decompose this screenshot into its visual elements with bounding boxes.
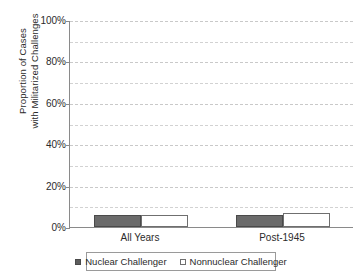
y-axis-tick-label: 40% xyxy=(22,140,66,150)
y-axis-tick-label: 60% xyxy=(22,99,66,109)
y-axis-tick-mark xyxy=(66,187,70,188)
y-axis-tick-mark xyxy=(66,145,70,146)
bars-layer xyxy=(70,21,353,227)
y-axis-tick-mark xyxy=(66,62,70,63)
x-axis-category-label: All Years xyxy=(69,231,211,244)
legend-swatch-icon xyxy=(75,259,81,265)
bar-group xyxy=(236,21,330,227)
y-axis-tick-label: 100% xyxy=(22,16,66,26)
y-axis-tick-labels: 100%80%60%40%20%0% xyxy=(22,0,66,276)
chart-legend: Nuclear ChallengerNonnuclear Challenger xyxy=(86,252,276,271)
y-axis-tick-label: 20% xyxy=(22,182,66,192)
x-axis-category-label: Post-1945 xyxy=(211,231,353,244)
bar-group xyxy=(94,21,188,227)
legend-item[interactable]: Nuclear Challenger xyxy=(75,257,166,267)
bar xyxy=(141,215,188,227)
legend-item-label: Nonnuclear Challenger xyxy=(190,257,287,267)
y-axis-tick-mark xyxy=(66,104,70,105)
bar xyxy=(94,215,141,227)
y-axis-tick-label: 0% xyxy=(22,223,66,233)
legend-item-label: Nuclear Challenger xyxy=(85,257,166,267)
bar xyxy=(236,215,283,227)
x-axis-category-labels: All YearsPost-1945 xyxy=(69,231,353,247)
bar-chart: Proportion of Cases with Militarized Cha… xyxy=(0,0,362,276)
y-axis-tick-label: 80% xyxy=(22,57,66,67)
plot-area xyxy=(69,21,353,228)
y-axis-tick-mark xyxy=(66,21,70,22)
bar xyxy=(283,213,330,227)
legend-swatch-icon xyxy=(180,259,186,265)
legend-item[interactable]: Nonnuclear Challenger xyxy=(180,257,287,267)
y-axis-tick-mark xyxy=(66,228,70,229)
